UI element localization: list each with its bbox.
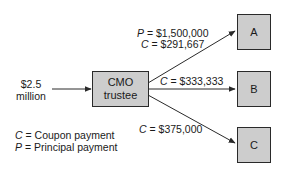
- arrow-to-c: [148, 95, 235, 143]
- coupon-symbol: C: [141, 38, 149, 50]
- legend-text: = Coupon payment: [23, 129, 115, 141]
- input-amount-line1: $2.5: [14, 78, 48, 90]
- tranche-a-label: A: [250, 26, 257, 39]
- tranche-c-box: C: [237, 127, 271, 163]
- tranche-c-label: C: [250, 139, 258, 152]
- flow-b-coupon: C = $333,333: [160, 75, 223, 87]
- flow-a-coupon-value: = $291,667: [149, 38, 205, 50]
- coupon-symbol: C: [160, 75, 168, 87]
- flow-c-coupon-value: = $375,000: [147, 123, 203, 135]
- legend-symbol: C: [15, 129, 23, 141]
- tranche-b-box: B: [237, 71, 271, 107]
- coupon-symbol: C: [139, 123, 147, 135]
- flow-b-coupon-value: = $333,333: [168, 75, 224, 87]
- legend-item-principal: P = Principal payment: [15, 141, 117, 153]
- tranche-a-box: A: [237, 14, 271, 50]
- legend-symbol: P: [15, 141, 22, 153]
- flow-c-coupon: C = $375,000: [139, 123, 202, 135]
- trustee-line2: trustee: [104, 89, 138, 102]
- tranche-b-label: B: [250, 83, 257, 96]
- legend: C = Coupon payment P = Principal payment: [15, 129, 117, 153]
- input-amount-label: $2.5 million: [14, 78, 48, 102]
- legend-text: = Principal payment: [22, 141, 117, 153]
- cmo-trustee-box: CMO trustee: [92, 71, 149, 107]
- input-amount-line2: million: [14, 90, 48, 102]
- legend-item-coupon: C = Coupon payment: [15, 129, 117, 141]
- flow-a-coupon: C = $291,667: [141, 38, 204, 50]
- trustee-line1: CMO: [108, 76, 134, 89]
